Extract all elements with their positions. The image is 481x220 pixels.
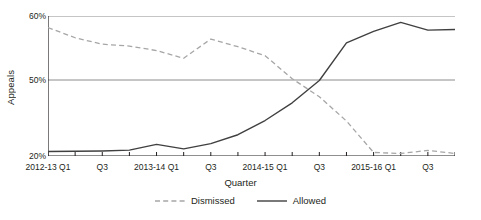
y-tick-label: 50%: [29, 75, 46, 85]
x-tick-label: 2012-13 Q1: [26, 162, 71, 172]
legend-item-allowed: Allowed: [257, 196, 326, 206]
gridlines: [48, 16, 455, 80]
y-axis-tick-labels: 20%50%60%: [0, 0, 46, 160]
legend-label-dismissed: Dismissed: [191, 196, 235, 206]
x-tick-label: Q3: [314, 162, 325, 172]
y-tick-label: 60%: [29, 11, 46, 21]
legend-swatch-dashed-icon: [155, 197, 185, 205]
x-tick-label: Q3: [205, 162, 216, 172]
x-axis-title: Quarter: [0, 177, 481, 188]
series-line-allowed: [48, 22, 455, 151]
x-tick-label: Q3: [97, 162, 108, 172]
x-tick-label: 2015-16 Q1: [351, 162, 396, 172]
series-line-dismissed: [48, 28, 455, 154]
legend-swatch-solid-icon: [257, 197, 287, 205]
chart-svg: [48, 16, 455, 156]
x-tick-label: 2013-14 Q1: [134, 162, 179, 172]
x-tick-label: 2014-15 Q1: [243, 162, 288, 172]
chart-container: Appeals 20%50%60% 2012-13 Q1Q32013-14 Q1…: [0, 0, 481, 220]
chart-legend: Dismissed Allowed: [0, 196, 481, 206]
legend-label-allowed: Allowed: [293, 196, 326, 206]
x-tick-label: Q3: [422, 162, 433, 172]
legend-item-dismissed: Dismissed: [155, 196, 235, 206]
plot-area: [48, 16, 455, 156]
x-axis-tick-labels: 2012-13 Q1Q32013-14 Q1Q32014-15 Q1Q32015…: [0, 160, 481, 176]
